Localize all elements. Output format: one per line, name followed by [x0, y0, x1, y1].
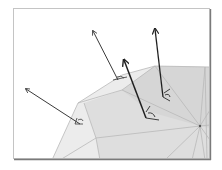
mesh-vertex [199, 125, 201, 127]
mesh-normals-diagram [0, 0, 222, 170]
